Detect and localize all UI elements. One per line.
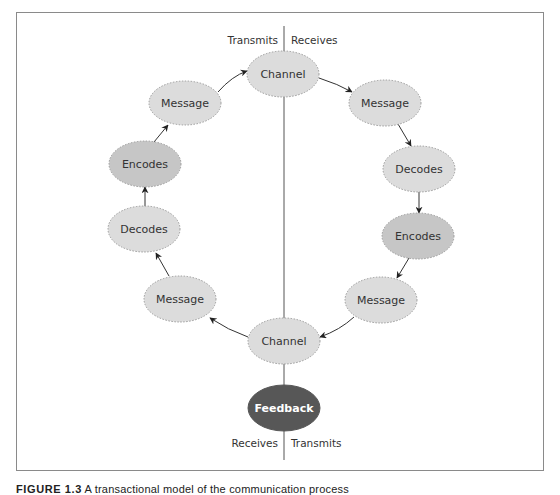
arrow-encodes-to-message-left [154, 125, 168, 142]
top-left-label: Transmits [227, 34, 278, 46]
node-label: Feedback [255, 402, 315, 415]
arrow-message-to-channel-bottom [320, 317, 354, 337]
node-label: Channel [260, 68, 305, 81]
node-decodes-left: Decodes [108, 206, 180, 252]
node-label: Encodes [395, 230, 441, 243]
arrow-message-to-channel-top [218, 71, 247, 92]
top-right-label: Receives [291, 34, 338, 46]
node-channel-bottom: Channel [248, 318, 320, 364]
node-label: Message [357, 294, 405, 307]
node-decodes-right: Decodes [383, 146, 455, 192]
node-label: Message [156, 293, 204, 306]
figure-caption: FIGURE 1.3 A transactional model of the … [16, 483, 349, 495]
node-message-right-bottom: Message [345, 277, 417, 323]
node-message-right-top: Message [349, 80, 421, 126]
bottom-right-label: Transmits [290, 437, 341, 449]
node-label: Message [161, 97, 209, 110]
node-label: Decodes [120, 223, 168, 236]
node-message-left-bottom: Message [144, 276, 216, 322]
node-feedback: Feedback [248, 385, 320, 431]
bottom-left-label: Receives [231, 437, 278, 449]
arrow-encodes-to-message-right [397, 258, 409, 278]
node-label: Decodes [395, 163, 443, 176]
node-message-left-top: Message [149, 81, 221, 125]
caption-text: A transactional model of the communicati… [85, 483, 349, 495]
node-encodes-left: Encodes [109, 141, 181, 187]
node-label: Channel [261, 335, 306, 348]
arrow-message-to-decodes-right [398, 124, 411, 146]
node-encodes-right: Encodes [382, 213, 454, 259]
node-label: Encodes [122, 158, 168, 171]
arrow-channel-to-message-right [319, 78, 352, 92]
arrow-channel-to-message-left [210, 318, 248, 337]
arrow-message-to-decodes-left [156, 253, 169, 276]
node-channel-top: Channel [247, 51, 319, 97]
caption-label: FIGURE 1.3 [16, 483, 82, 495]
node-label: Message [361, 97, 409, 110]
